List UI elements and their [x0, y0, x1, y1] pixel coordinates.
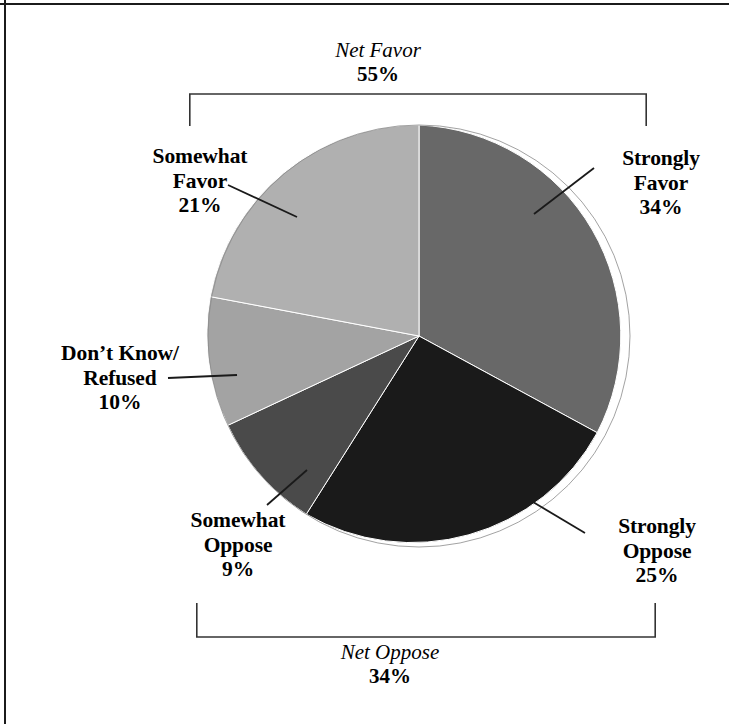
slice-value-strongly-favor: 34% — [598, 195, 724, 220]
slice-label-dont-know-line2: Refused — [30, 366, 210, 391]
slice-label-dont-know-line1: Don’t Know/ — [30, 341, 210, 366]
slice-label-strongly-favor-line2: Favor — [598, 171, 724, 196]
slice-label-somewhat-favor: Somewhat Favor 21% — [120, 144, 280, 218]
slice-label-strongly-favor-line1: Strongly — [598, 146, 724, 171]
slice-label-somewhat-oppose-line1: Somewhat — [158, 508, 318, 533]
slice-value-somewhat-oppose: 9% — [158, 557, 318, 582]
net-oppose-bracket — [196, 603, 656, 637]
net-oppose-label: Net Oppose — [330, 640, 450, 664]
slice-label-somewhat-favor-line1: Somewhat — [120, 144, 280, 169]
net-favor-annotation: Net Favor 55% — [318, 38, 438, 87]
slice-label-somewhat-favor-line2: Favor — [120, 169, 280, 194]
slice-label-somewhat-oppose-line2: Oppose — [158, 533, 318, 558]
slice-label-strongly-oppose-line2: Oppose — [590, 539, 724, 564]
slice-label-dont-know: Don’t Know/ Refused 10% — [30, 341, 210, 415]
slice-label-somewhat-oppose: Somewhat Oppose 9% — [158, 508, 318, 582]
net-oppose-value: 34% — [330, 664, 450, 688]
slice-label-strongly-oppose: Strongly Oppose 25% — [590, 514, 724, 588]
chart-page: Net Favor 55% Net Oppose 34% Strongly Fa… — [0, 0, 729, 724]
slice-value-strongly-oppose: 25% — [590, 563, 724, 588]
slice-label-strongly-favor: Strongly Favor 34% — [598, 146, 724, 220]
net-oppose-annotation: Net Oppose 34% — [330, 640, 450, 689]
net-favor-label: Net Favor — [318, 38, 438, 62]
leader-line-strongly-oppose — [533, 502, 585, 533]
net-favor-bracket — [189, 94, 647, 126]
net-favor-value: 55% — [318, 62, 438, 86]
slice-label-strongly-oppose-line1: Strongly — [590, 514, 724, 539]
slice-value-somewhat-favor: 21% — [120, 193, 280, 218]
slice-value-dont-know: 10% — [30, 390, 210, 415]
